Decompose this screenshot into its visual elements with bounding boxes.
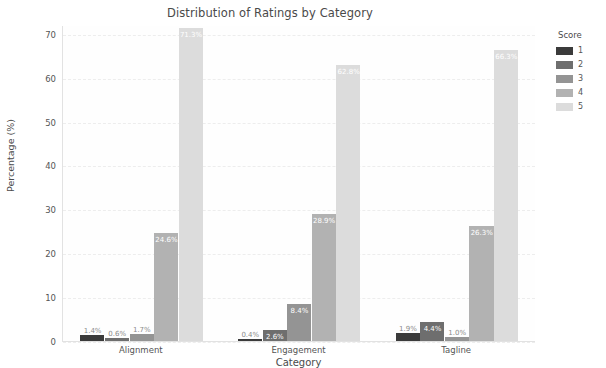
legend-swatch [556,103,573,111]
legend-swatch [556,47,573,55]
gridline [63,35,535,36]
bar [396,333,420,341]
chart-title: Distribution of Ratings by Category [0,6,540,20]
legend-label: 4 [578,88,583,97]
bar [494,50,518,341]
x-tick-label: Engagement [271,345,325,355]
legend-item[interactable]: 5 [556,100,604,113]
bar [105,338,129,341]
legend-item[interactable]: 3 [556,72,604,85]
gridline [63,254,535,255]
bar-value-label: 66.3% [486,53,526,61]
legend-swatch [556,61,573,69]
bar [130,334,154,341]
bar [179,28,203,341]
legend-label: 5 [578,102,583,111]
legend-item[interactable]: 2 [556,58,604,71]
y-tick-label: 40 [30,161,56,171]
gridline [63,166,535,167]
y-tick-label: 30 [30,205,56,215]
gridline [63,79,535,80]
legend-entries: 12345 [556,44,604,113]
x-axis-label: Category [62,357,535,368]
y-tick-label: 70 [30,30,56,40]
gridline [63,210,535,211]
bar [336,65,360,341]
gridline [63,342,535,343]
gridline [63,298,535,299]
y-tick-label: 50 [30,118,56,128]
legend-swatch [556,89,573,97]
y-axis-ticks: 010203040506070 [26,26,56,342]
bar [445,337,469,341]
legend-label: 2 [578,60,583,69]
chart-figure: Distribution of Ratings by Category Perc… [0,0,606,368]
x-tick-label: Tagline [441,345,471,355]
legend-swatch [556,75,573,83]
x-tick-label: Alignment [119,345,163,355]
legend: Score 12345 [556,30,604,114]
bar [312,214,336,341]
y-tick-label: 10 [30,293,56,303]
y-tick-label: 20 [30,249,56,259]
bar-value-label: 62.8% [329,68,369,76]
y-tick-label: 0 [30,337,56,347]
bar-value-label: 71.3% [171,31,211,39]
bar [154,233,178,341]
legend-item[interactable]: 1 [556,44,604,57]
legend-title: Score [558,30,604,40]
gridline [63,123,535,124]
plot-area: 1.4%0.6%1.7%24.6%71.3%0.4%2.6%8.4%28.9%6… [62,26,535,342]
legend-item[interactable]: 4 [556,86,604,99]
y-tick-label: 60 [30,74,56,84]
legend-label: 1 [578,46,583,55]
legend-label: 3 [578,74,583,83]
bar [469,226,493,341]
y-axis-label: Percentage (%) [5,86,16,226]
